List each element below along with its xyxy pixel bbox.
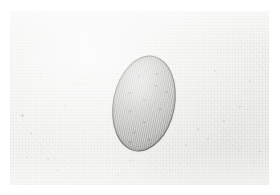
background-speck [214,70,216,72]
ovum-shell [104,49,183,156]
background-speck [56,170,58,172]
background-speck [47,158,49,160]
ovum-granule [129,110,131,112]
ovum-granule [156,72,158,74]
background-speck [207,138,209,140]
ovum-granule [144,121,146,123]
background-speck [253,162,255,164]
background-speck [26,156,28,158]
background-speck [129,160,131,162]
ovum-granule [138,75,140,77]
background-speck [223,120,225,122]
background-speck [64,105,66,107]
ovum-striation-texture [107,52,182,154]
ovum-granule [155,85,157,87]
ovum-highlight [108,53,180,153]
background-speck [21,114,24,117]
background-speck [105,28,107,30]
ovum-specimen [104,49,183,156]
background-speck [85,76,87,78]
background-speck [159,36,161,38]
background-speck [259,150,261,152]
ovum-granules-layer [124,51,183,62]
background-speck [73,38,75,40]
background-speck [99,67,101,69]
background-speck [197,128,200,131]
background-speck [117,174,119,176]
micrograph-plate [10,11,269,185]
ovum-granule [129,141,131,143]
background-speck [169,170,171,172]
background-speck [249,80,251,82]
ovum-granule [159,108,161,110]
background-speck [79,82,82,85]
ovum-granule [166,91,168,93]
ovum-granule [133,131,136,134]
micrograph-figure [0,0,280,195]
ovum-granule [148,138,150,140]
ovum-granule [143,98,146,101]
background-speck [239,106,241,108]
background-speck [30,132,32,134]
background-speck [185,144,187,146]
background-speck [39,76,41,78]
ovum-granule [129,92,131,94]
